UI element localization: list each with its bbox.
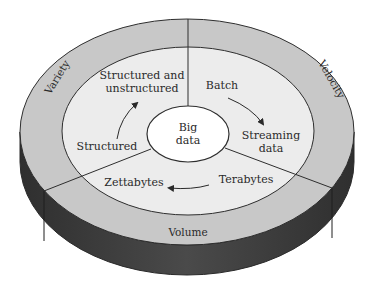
center-label: Big data bbox=[176, 121, 201, 147]
volume-ring-label: Volume bbox=[168, 226, 207, 239]
big-data-3v-diagram: Big data Structured and unstructured Str… bbox=[0, 0, 373, 286]
velocity-to-line2: data bbox=[242, 142, 300, 155]
velocity-from-label: Batch bbox=[206, 79, 238, 92]
velocity-to-line1: Streaming bbox=[242, 129, 300, 142]
variety-to-line2: unstructured bbox=[100, 82, 185, 95]
center-label-line2: data bbox=[176, 134, 201, 147]
velocity-to-label: Streaming data bbox=[242, 129, 300, 155]
variety-from-label: Structured bbox=[77, 140, 138, 153]
volume-to-label: Zettabytes bbox=[104, 176, 163, 189]
variety-to-label: Structured and unstructured bbox=[100, 69, 185, 95]
volume-from-label: Terabytes bbox=[219, 173, 274, 186]
center-label-line1: Big bbox=[176, 121, 201, 134]
variety-to-line1: Structured and bbox=[100, 69, 185, 82]
